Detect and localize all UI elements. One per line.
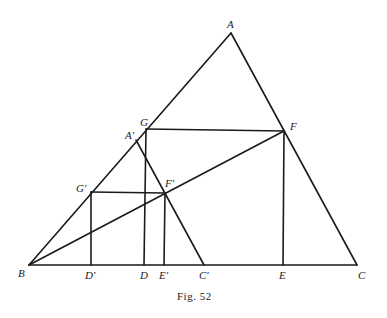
label-e: E	[278, 269, 286, 281]
label-e1: E′	[158, 269, 169, 281]
segment-gf	[146, 129, 284, 131]
figure-caption: Fig. 52	[177, 290, 212, 302]
side-ab	[29, 33, 231, 265]
label-f: F	[289, 120, 297, 132]
label-g: G	[140, 116, 148, 128]
segment-a1c1	[136, 140, 204, 265]
label-a1: A′	[124, 129, 135, 141]
label-c1: C′	[199, 269, 209, 281]
segment-bf	[29, 131, 284, 265]
label-c: C	[358, 269, 366, 281]
segment-gd	[144, 129, 146, 265]
segment-fe	[283, 131, 284, 265]
label-g1: G′	[76, 182, 87, 194]
label-b: B	[18, 267, 25, 279]
label-f1: F′	[164, 177, 175, 189]
label-a: A	[226, 18, 234, 30]
segment-g1f1	[91, 192, 165, 193]
label-d1: D′	[84, 269, 96, 281]
segment-f1e1	[164, 193, 165, 265]
geometry-figure: A B C G F A′ G′ F′ D′ D E′ C′ E Fig. 52	[0, 0, 387, 318]
label-d: D	[139, 269, 148, 281]
